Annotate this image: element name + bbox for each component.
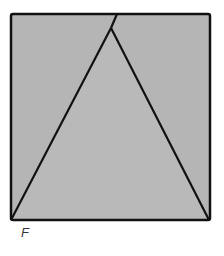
figure-label: F xyxy=(21,225,29,240)
figure-diagram xyxy=(0,0,224,256)
